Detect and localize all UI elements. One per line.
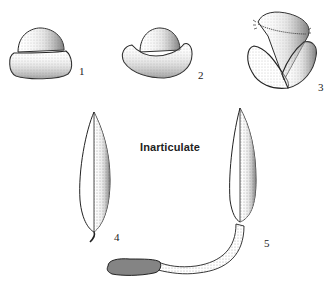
- figure-5-spathe: [107, 108, 256, 275]
- figure-2-cup: [122, 28, 192, 78]
- figure-1-label: 1: [79, 66, 85, 77]
- figure-3-flower: [248, 12, 317, 88]
- figure-1-pebble: [10, 28, 72, 79]
- figure-3-label: 3: [318, 82, 324, 93]
- figure-4-leaf: [80, 112, 110, 242]
- figure-5-label: 5: [264, 238, 270, 249]
- figure-4-label: 4: [114, 232, 120, 243]
- figure-2-label: 2: [198, 70, 204, 81]
- inarticulate-title: Inarticulate: [140, 141, 200, 153]
